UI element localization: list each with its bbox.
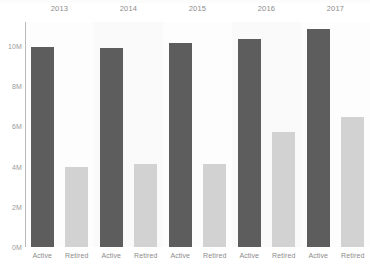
y-axis: 0M2M4M6M8M10M — [0, 22, 25, 247]
group-header-row: 20132014201520162017 — [0, 0, 370, 22]
x-tick-label-2015-active: Active — [163, 252, 198, 259]
group-label-2015: 2015 — [163, 4, 232, 13]
x-tick-label-2014-retired: Retired — [129, 252, 164, 259]
group-label-2016: 2016 — [232, 4, 301, 13]
y-axis-line — [25, 22, 26, 247]
bar-chart: 20132014201520162017 0M2M4M6M8M10M Activ… — [0, 0, 370, 268]
bar-2015-active[interactable] — [169, 43, 192, 247]
x-tick-label-2013-retired: Retired — [60, 252, 95, 259]
x-tick-label-2016-retired: Retired — [267, 252, 302, 259]
y-tick-label-4M: 4M — [12, 163, 22, 170]
plot-area — [25, 22, 370, 247]
bar-2013-retired[interactable] — [65, 167, 88, 247]
y-tick-label-6M: 6M — [12, 123, 22, 130]
x-tick-label-2013-active: Active — [25, 252, 60, 259]
bar-2017-retired[interactable] — [341, 117, 364, 247]
bar-2016-active[interactable] — [238, 39, 261, 247]
y-tick-label-2M: 2M — [12, 203, 22, 210]
group-label-2017: 2017 — [301, 4, 370, 13]
x-tick-label-2017-active: Active — [301, 252, 336, 259]
bar-2014-active[interactable] — [100, 48, 123, 247]
x-tick-label-2014-active: Active — [94, 252, 129, 259]
group-label-2014: 2014 — [94, 4, 163, 13]
y-tick-label-0M: 0M — [12, 244, 22, 251]
bar-2016-retired[interactable] — [272, 132, 295, 248]
bar-2013-active[interactable] — [31, 47, 54, 247]
x-tick-label-2015-retired: Retired — [198, 252, 233, 259]
bar-2014-retired[interactable] — [134, 164, 157, 247]
y-tick-label-8M: 8M — [12, 83, 22, 90]
bar-2017-active[interactable] — [307, 29, 330, 247]
x-tick-label-2017-retired: Retired — [336, 252, 370, 259]
x-tick-label-2016-active: Active — [232, 252, 267, 259]
x-axis: ActiveRetiredActiveRetiredActiveRetiredA… — [25, 247, 370, 268]
y-tick-label-10M: 10M — [8, 43, 22, 50]
bar-2015-retired[interactable] — [203, 164, 226, 247]
group-label-2013: 2013 — [25, 4, 94, 13]
